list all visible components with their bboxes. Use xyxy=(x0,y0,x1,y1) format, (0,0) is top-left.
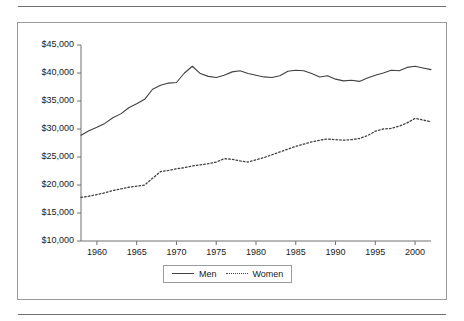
figure-frame: $10,000$15,000$20,000$25,000$30,000$35,0… xyxy=(17,22,447,300)
x-tick-label: 1975 xyxy=(196,248,236,257)
y-tick-label: $45,000 xyxy=(18,40,74,49)
top-horizontal-rule xyxy=(18,6,446,7)
y-tick-label: $20,000 xyxy=(18,180,74,189)
solid-line-swatch xyxy=(172,273,194,275)
chart-page: $10,000$15,000$20,000$25,000$30,000$35,0… xyxy=(0,0,464,321)
y-tick-label: $15,000 xyxy=(18,208,74,217)
y-tick-label: $25,000 xyxy=(18,152,74,161)
legend-label: Men xyxy=(199,269,217,279)
dotted-line-swatch xyxy=(226,273,248,275)
x-tick-label: 1980 xyxy=(236,248,276,257)
x-tick-label: 1985 xyxy=(276,248,316,257)
series-line-women xyxy=(81,118,431,197)
x-tick-label: 1995 xyxy=(355,248,395,257)
y-tick-label: $10,000 xyxy=(18,236,74,245)
y-tick-label: $35,000 xyxy=(18,96,74,105)
series-line-men xyxy=(81,66,431,135)
bottom-horizontal-rule xyxy=(18,314,446,315)
y-tick-label: $30,000 xyxy=(18,124,74,133)
y-tick-label: $40,000 xyxy=(18,68,74,77)
legend-entry-women: Women xyxy=(226,269,284,279)
legend-label: Women xyxy=(253,269,284,279)
x-tick-label: 1990 xyxy=(316,248,356,257)
x-tick-label: 1960 xyxy=(77,248,117,257)
x-tick-label: 1965 xyxy=(117,248,157,257)
x-tick-label: 2000 xyxy=(395,248,435,257)
line-chart-plot xyxy=(18,23,446,299)
x-tick-label: 1970 xyxy=(156,248,196,257)
legend-entry-men: Men xyxy=(172,269,217,279)
chart-legend: MenWomen xyxy=(163,265,292,283)
